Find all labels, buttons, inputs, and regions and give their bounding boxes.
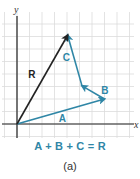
vector-addition-diagram: x y ABCR — [0, 0, 140, 140]
y-axis-label: y — [13, 4, 19, 15]
vector-label-r: R — [28, 69, 36, 80]
vector-sum-equation: A + B + C = R — [0, 140, 140, 152]
vector-label-b: B — [101, 85, 108, 96]
vector-label-a: A — [59, 113, 66, 124]
vector-label-c: C — [63, 52, 70, 63]
figure-caption: (a) — [0, 160, 140, 172]
x-axis-label: x — [133, 119, 139, 130]
grid — [2, 12, 134, 138]
